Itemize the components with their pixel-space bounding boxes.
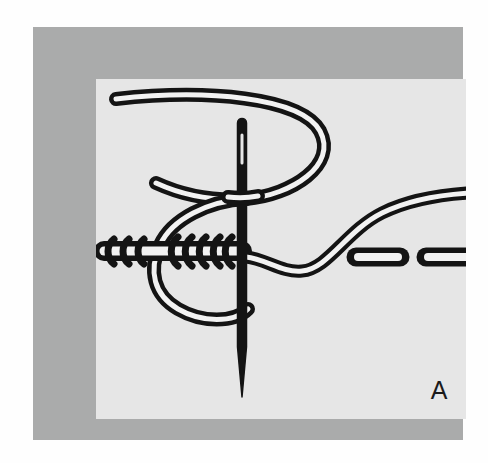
illustration-panel: A (96, 79, 466, 419)
panel-label: A (431, 378, 448, 403)
thread-top-loop (116, 95, 324, 199)
figure-frame-border: A (33, 27, 463, 440)
stitch-illustration-svg (96, 79, 466, 419)
thread-front-of-needle (228, 196, 258, 198)
figure-root: A (0, 0, 488, 463)
sewing-needle (238, 119, 247, 398)
